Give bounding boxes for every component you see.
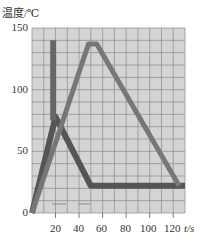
x-tick-60: 60 [96,222,107,234]
x-tick-80: 80 [120,222,131,234]
x-tick-marks [56,213,174,218]
x-tick-40: 40 [73,222,84,234]
x-tick-120: 120 [164,222,181,234]
x-tick-100: 100 [140,222,157,234]
y-tick-100: 100 [4,83,28,95]
y-tick-50: 50 [4,144,28,156]
y-tick-150: 150 [4,21,28,33]
x-axis-unit: t/s [184,222,194,234]
y-tick-0: 0 [4,206,28,218]
x-tick-20: 20 [50,222,61,234]
chart-canvas [0,0,204,245]
y-axis-title: 温度/℃ [2,4,39,20]
